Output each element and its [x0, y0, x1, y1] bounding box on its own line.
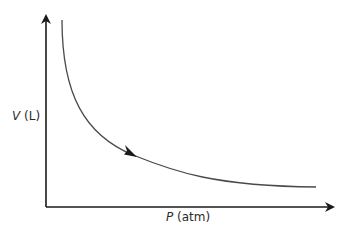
y-axis-unit: (L) — [20, 109, 40, 123]
y-axis-variable: V — [12, 109, 20, 123]
pv-curve — [62, 20, 316, 187]
x-axis-unit: (atm) — [173, 210, 210, 224]
y-axis-label: V (L) — [12, 110, 40, 122]
x-axis-label: P (atm) — [166, 211, 210, 223]
curve-direction-arrow-icon — [124, 145, 137, 157]
diagram-canvas — [0, 0, 345, 238]
boyles-law-diagram: V (L) P (atm) — [0, 0, 345, 238]
